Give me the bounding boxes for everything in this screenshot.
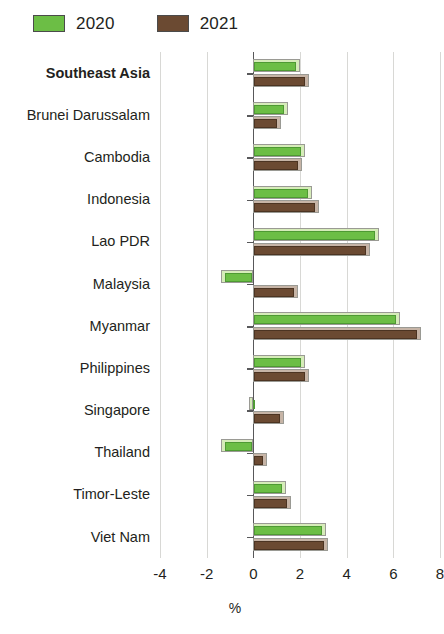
category-label-row: Viet Nam xyxy=(0,516,158,558)
gridline xyxy=(160,52,161,558)
category-label: Myanmar xyxy=(90,319,150,334)
category-label-row: Brunei Darussalam xyxy=(0,94,158,136)
bar-2021-southeast-asia xyxy=(253,74,309,87)
bar-2020-cambodia xyxy=(253,144,304,157)
bar-2021-brunei-darussalam xyxy=(253,116,281,129)
gridline xyxy=(207,52,208,558)
bar-2021-singapore xyxy=(253,411,283,424)
axis-tick xyxy=(247,537,253,539)
category-label: Southeast Asia xyxy=(46,66,150,81)
axis-tick xyxy=(247,200,253,202)
x-axis-tick-labels: -4-202468 xyxy=(160,566,440,592)
bar-face xyxy=(254,315,396,324)
category-label-row: Thailand xyxy=(0,432,158,474)
axis-tick xyxy=(247,242,253,244)
bar-2021-viet-nam xyxy=(253,538,328,551)
category-label-row: Cambodia xyxy=(0,136,158,178)
legend-swatch-2020 xyxy=(33,15,65,32)
bar-face xyxy=(254,484,282,493)
bar-face xyxy=(254,288,293,297)
axis-tick xyxy=(247,410,253,412)
bar-2020-brunei-darussalam xyxy=(253,102,288,115)
bar-face xyxy=(254,231,375,240)
bar-2020-southeast-asia xyxy=(253,59,300,72)
x-axis-title: % xyxy=(0,600,440,616)
category-label-row: Indonesia xyxy=(0,179,158,221)
axis-tick xyxy=(247,73,253,75)
bar-face xyxy=(254,203,314,212)
category-label-row: Timor-Leste xyxy=(0,474,158,516)
bar-2020-thailand xyxy=(221,439,254,452)
bar-2020-viet-nam xyxy=(253,523,325,536)
category-label: Thailand xyxy=(94,445,150,460)
bar-2021-indonesia xyxy=(253,200,318,213)
category-label: Lao PDR xyxy=(91,234,150,249)
bar-face xyxy=(254,189,307,198)
bar-face xyxy=(254,372,305,381)
axis-tick xyxy=(247,326,253,328)
axis-tick xyxy=(247,495,253,497)
bar-face xyxy=(254,330,417,339)
legend-item-2021: 2021 xyxy=(157,15,239,32)
category-label: Cambodia xyxy=(84,150,150,165)
legend-label-2021: 2021 xyxy=(200,15,239,32)
bar-face xyxy=(225,442,253,451)
category-label-row: Singapore xyxy=(0,389,158,431)
bar-face xyxy=(254,541,324,550)
bar-2020-singapore xyxy=(249,397,254,410)
x-tick-label: 8 xyxy=(436,566,444,581)
bar-2020-timor-leste xyxy=(253,481,286,494)
category-axis-labels: Southeast AsiaBrunei DarussalamCambodiaI… xyxy=(0,52,158,570)
axis-tick xyxy=(247,453,253,455)
bar-2020-indonesia xyxy=(253,186,311,199)
bar-2020-myanmar xyxy=(253,312,400,325)
category-label-row: Philippines xyxy=(0,347,158,389)
bar-face xyxy=(254,119,277,128)
gridline xyxy=(440,52,441,558)
category-label-row: Lao PDR xyxy=(0,221,158,263)
axis-tick xyxy=(247,157,253,159)
legend-item-2020: 2020 xyxy=(33,15,115,32)
bar-2020-philippines xyxy=(253,355,304,368)
bar-face xyxy=(254,62,296,71)
category-label: Timor-Leste xyxy=(73,487,150,502)
bar-face xyxy=(254,246,366,255)
category-label-row: Malaysia xyxy=(0,263,158,305)
x-tick-label: -2 xyxy=(200,566,213,581)
legend-swatch-2021 xyxy=(157,15,189,32)
category-label: Malaysia xyxy=(93,277,150,292)
category-label: Philippines xyxy=(80,361,150,376)
category-label: Viet Nam xyxy=(91,530,150,545)
bar-2021-malaysia xyxy=(253,285,297,298)
bar-face xyxy=(254,77,305,86)
bar-face xyxy=(253,400,255,409)
bar-face xyxy=(254,358,300,367)
gridline xyxy=(347,52,348,558)
x-tick-label: -4 xyxy=(153,566,166,581)
bar-2021-lao-pdr xyxy=(253,243,370,256)
bar-2021-cambodia xyxy=(253,158,302,171)
chart-legend: 2020 2021 xyxy=(0,0,440,46)
plot-area: Southeast AsiaBrunei DarussalamCambodiaI… xyxy=(0,52,440,570)
bar-2020-malaysia xyxy=(221,270,254,283)
x-axis-title-text: % xyxy=(229,600,241,616)
gridline xyxy=(393,52,394,558)
plot-canvas xyxy=(160,52,440,570)
axis-tick xyxy=(247,368,253,370)
x-tick-label: 6 xyxy=(389,566,397,581)
bar-2021-timor-leste xyxy=(253,496,290,509)
bar-face xyxy=(254,499,286,508)
x-tick-label: 2 xyxy=(296,566,304,581)
bar-2021-thailand xyxy=(253,453,267,466)
bar-face xyxy=(254,147,300,156)
x-tick-label: 0 xyxy=(249,566,257,581)
category-label: Indonesia xyxy=(87,192,150,207)
category-label: Singapore xyxy=(84,403,150,418)
bar-face xyxy=(254,456,263,465)
x-tick-label: 4 xyxy=(342,566,350,581)
bar-face xyxy=(225,273,253,282)
bar-2021-philippines xyxy=(253,369,309,382)
bar-face xyxy=(254,161,298,170)
bar-face xyxy=(254,105,284,114)
